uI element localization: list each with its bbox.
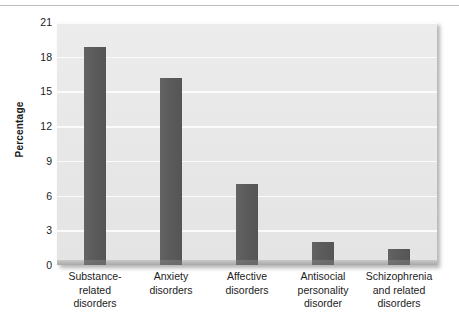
bar [160,78,182,265]
y-axis-tick-label: 18 [24,51,52,63]
y-axis-tick-label: 9 [24,155,52,167]
y-axis-tick-label: 15 [24,85,52,97]
x-axis-category-label: Schizophreniaand relateddisorders [353,270,445,311]
bar-series [57,22,437,265]
y-axis-tick-label: 21 [24,16,52,28]
bar [84,47,106,265]
y-axis-tick-label: 0 [24,259,52,271]
y-axis-title: Percentage [14,85,25,175]
bar [236,184,258,265]
bar-slot [209,22,285,265]
bar-slot [57,22,133,265]
y-axis-tick-label: 12 [24,120,52,132]
bar-slot [361,22,437,265]
x-axis-category-label-line: disorders [49,297,141,311]
bar-slot [285,22,361,265]
top-divider-rule [0,5,459,6]
bar-slot [133,22,209,265]
bar-chart-figure: Percentage 036912151821 Substance-relate… [0,0,459,327]
y-axis-tick-label: 3 [24,224,52,236]
y-axis-tick-label: 6 [24,190,52,202]
x-axis-category-label-line: and related [353,284,445,298]
baseline-shadow [57,260,437,265]
x-axis-category-labels: Substance-relateddisordersAnxietydisorde… [57,270,437,325]
plot-area [57,22,437,265]
x-axis-category-label-line: Schizophrenia [353,270,445,284]
y-axis-tick-labels: 036912151821 [24,0,52,327]
x-axis-category-label-line: disorders [353,297,445,311]
